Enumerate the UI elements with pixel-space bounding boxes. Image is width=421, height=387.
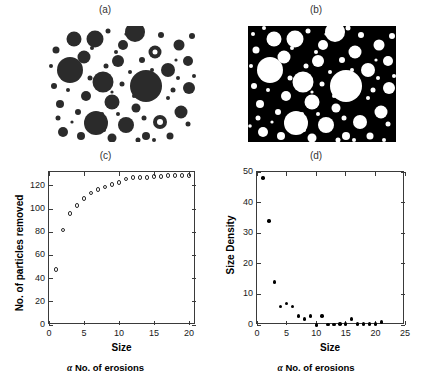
panel-b-label: (b)	[211, 4, 421, 15]
y-tick	[257, 202, 261, 203]
data-point	[166, 173, 171, 178]
data-point	[124, 177, 129, 182]
y-tick	[49, 255, 53, 256]
data-point	[159, 174, 164, 179]
x-tick	[257, 172, 258, 176]
panel-c: (c) No. of particles removed 05101520020…	[0, 150, 211, 387]
y-tick	[401, 325, 405, 326]
y-tick	[257, 233, 261, 234]
data-point	[145, 175, 150, 180]
x-tick	[345, 172, 346, 176]
x-tick	[316, 172, 317, 176]
x-tick	[375, 172, 376, 176]
y-tick	[192, 301, 196, 302]
alpha-symbol-c: α	[67, 363, 72, 373]
x-tick-label: 25	[393, 328, 417, 338]
data-point	[338, 322, 341, 325]
data-point	[368, 322, 371, 325]
y-tick	[401, 202, 405, 203]
x-tick-label: 0	[37, 328, 61, 338]
y-tick-label: 120	[13, 180, 45, 190]
x-tick	[84, 321, 85, 325]
data-point	[68, 211, 73, 216]
data-point	[75, 203, 80, 208]
y-tick	[192, 232, 196, 233]
y-tick	[49, 278, 53, 279]
data-point	[54, 267, 59, 272]
panel-c-caption: α No. of erosions	[0, 362, 211, 373]
x-tick	[286, 321, 287, 325]
y-tick	[257, 263, 261, 264]
y-tick	[49, 301, 53, 302]
data-point	[180, 173, 185, 178]
y-tick	[192, 209, 196, 210]
data-point	[380, 320, 383, 323]
panel-d-caption-text: No. of erosions	[285, 362, 354, 373]
data-point	[131, 175, 136, 180]
data-point	[350, 317, 353, 320]
panel-d-plot-area: 051015202501020304050	[256, 171, 404, 324]
panel-a-label: (a)	[0, 4, 210, 15]
y-tick	[401, 172, 405, 173]
panel-b: (b)	[211, 4, 421, 149]
y-tick	[192, 278, 196, 279]
data-point	[374, 322, 377, 325]
y-tick	[192, 185, 196, 186]
y-tick-label: 20	[13, 296, 45, 306]
y-tick-label: 40	[13, 273, 45, 283]
y-tick	[49, 325, 53, 326]
x-tick-label: 20	[177, 328, 201, 338]
x-tick-label: 5	[72, 328, 96, 338]
data-point	[362, 322, 365, 325]
y-tick	[192, 325, 196, 326]
y-tick-label: 50	[221, 166, 253, 176]
y-tick-label: 30	[221, 227, 253, 237]
panel-c-label: (c)	[0, 150, 211, 161]
data-point	[273, 280, 276, 283]
data-point	[309, 314, 312, 317]
y-tick	[257, 294, 261, 295]
y-tick	[257, 172, 261, 173]
data-point	[117, 180, 122, 185]
data-point	[82, 196, 87, 201]
data-point	[315, 323, 318, 326]
x-tick-label: 15	[142, 328, 166, 338]
x-tick	[154, 321, 155, 325]
y-tick	[257, 325, 261, 326]
x-tick	[286, 172, 287, 176]
data-point	[279, 305, 282, 308]
data-point	[285, 302, 288, 305]
x-tick	[119, 321, 120, 325]
data-point	[326, 323, 329, 326]
data-point	[61, 228, 66, 233]
y-tick-label: 0	[221, 319, 253, 329]
data-point	[187, 173, 192, 178]
x-tick-label: 0	[245, 328, 269, 338]
y-tick-label: 0	[13, 319, 45, 329]
x-tick	[405, 172, 406, 176]
x-tick-label: 5	[275, 328, 299, 338]
y-tick-label: 60	[13, 249, 45, 259]
data-point	[152, 174, 157, 179]
x-tick	[189, 321, 190, 325]
y-tick	[49, 185, 53, 186]
data-point	[89, 191, 94, 196]
binary-image-b	[248, 26, 396, 142]
binary-image-a	[48, 26, 196, 142]
panel-d-xlabel: Size	[256, 342, 404, 353]
x-tick	[49, 172, 50, 176]
data-point	[291, 305, 294, 308]
data-point	[110, 182, 115, 187]
x-tick	[119, 172, 120, 176]
x-tick	[84, 172, 85, 176]
y-tick-label: 10	[221, 288, 253, 298]
y-tick	[401, 294, 405, 295]
particles-svg-a	[48, 26, 196, 142]
panel-d-label: (d)	[211, 150, 421, 161]
panel-c-caption-text: No. of erosions	[75, 362, 144, 373]
alpha-symbol-d: α	[277, 363, 282, 373]
panel-c-plot-area: 05101520020406080100120	[48, 171, 195, 324]
panel-d-caption: α No. of erosions	[211, 362, 421, 373]
panel-c-xlabel: Size	[48, 342, 195, 353]
data-point	[344, 322, 347, 325]
